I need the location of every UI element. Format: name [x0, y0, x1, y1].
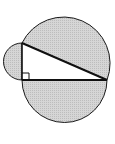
bottom-leg-semicircle — [22, 80, 107, 122]
diagram-canvas — [0, 0, 115, 144]
pythagorean-semicircles-diagram — [0, 0, 115, 144]
left-leg-semicircle — [4, 43, 23, 80]
